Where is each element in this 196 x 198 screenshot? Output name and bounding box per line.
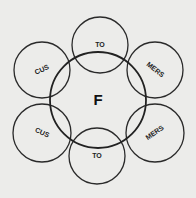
- center-circle-group: F: [50, 52, 146, 148]
- label-top: TO: [95, 41, 105, 48]
- satellite-circle-top: TO: [72, 17, 128, 73]
- label-bottom: TO: [92, 152, 102, 159]
- label-top-right: MERS: [145, 60, 166, 78]
- center-label: F: [93, 91, 102, 108]
- ring-diagram: TO MERS MERS TO CUS CUS F: [0, 0, 196, 198]
- label-bottom-right: MERS: [144, 124, 165, 142]
- satellite-circle-bottom: TO: [69, 128, 125, 184]
- diagram-canvas: TO MERS MERS TO CUS CUS F: [0, 0, 196, 198]
- satellite-circle-bottom-right: MERS: [126, 104, 184, 162]
- label-top-left: CUS: [34, 63, 51, 76]
- label-bottom-left: CUS: [34, 126, 51, 139]
